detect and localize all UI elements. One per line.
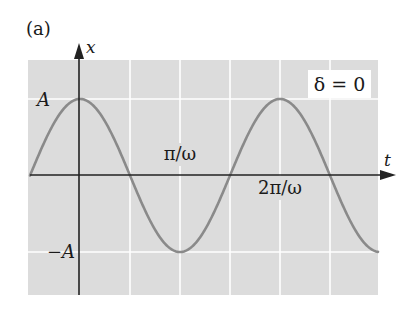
half-period-label: π/ω — [164, 143, 197, 164]
displacement-axis-arrow-icon — [74, 43, 84, 59]
amplitude-positive-label: A — [35, 89, 50, 110]
time-axis-arrow-icon — [380, 170, 396, 180]
phase-label: δ = 0 — [314, 73, 366, 95]
panel-label: (a) — [26, 18, 51, 39]
time-axis-label: t — [384, 150, 391, 170]
oscillation-figure: δ = 0 (a) x t A −A π/ω 2π/ω — [0, 0, 420, 324]
full-period-label: 2π/ω — [258, 177, 302, 198]
amplitude-negative-label: −A — [47, 241, 75, 262]
displacement-axis-label: x — [86, 37, 96, 57]
